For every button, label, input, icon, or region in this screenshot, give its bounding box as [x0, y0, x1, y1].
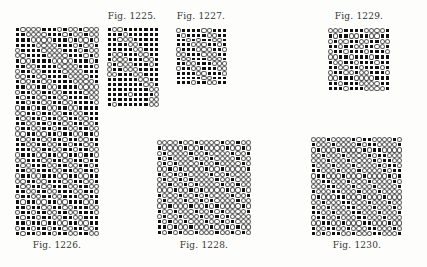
empty-circle [89, 84, 94, 89]
empty-circle [194, 166, 199, 171]
empty-circle [154, 102, 159, 107]
empty-circle [356, 200, 361, 205]
caption-1229: Fig. 1229. [335, 11, 383, 21]
filled-square [94, 199, 99, 204]
caption-1227: Fig. 1227. [177, 11, 225, 21]
caption-1230: Fig. 1230. [333, 240, 381, 250]
empty-circle [246, 230, 251, 235]
filled-square [47, 231, 52, 236]
filled-square [62, 231, 67, 236]
filled-square [94, 179, 99, 184]
empty-circle [83, 84, 88, 89]
filled-square [377, 231, 382, 236]
filled-square [83, 231, 88, 236]
weave-grid-1226 [15, 27, 99, 236]
empty-circle [377, 200, 382, 205]
empty-circle [214, 187, 219, 192]
filled-square [385, 33, 390, 38]
empty-circle [68, 231, 73, 236]
empty-circle [94, 84, 99, 89]
filled-square [167, 230, 172, 235]
empty-circle [207, 52, 212, 57]
empty-circle [246, 224, 251, 229]
empty-circle [377, 173, 382, 178]
filled-square [241, 230, 246, 235]
empty-circle [214, 145, 219, 150]
filled-square [201, 80, 206, 85]
weave-grid-1228 [157, 140, 251, 235]
empty-circle [356, 231, 361, 236]
empty-circle [397, 220, 402, 225]
filled-square [222, 80, 227, 85]
empty-circle [397, 194, 402, 199]
empty-circle [397, 200, 402, 205]
empty-circle [62, 64, 67, 69]
empty-circle [372, 173, 377, 178]
empty-circle [167, 145, 172, 150]
filled-square [385, 86, 390, 91]
filled-square [194, 230, 199, 235]
filled-square [94, 58, 99, 63]
empty-circle [62, 58, 67, 63]
empty-circle [362, 231, 367, 236]
caption-1228: Fig. 1228. [180, 240, 228, 250]
empty-circle [356, 226, 361, 231]
filled-square [397, 231, 402, 236]
empty-circle [68, 64, 73, 69]
empty-circle [374, 86, 379, 91]
caption-1226: Fig. 1226. [33, 240, 81, 250]
caption-1225: Fig. 1225. [108, 11, 156, 21]
empty-circle [89, 231, 94, 236]
weave-grid-1227 [176, 28, 227, 85]
weave-grid-1229 [328, 28, 390, 91]
filled-square [143, 102, 148, 107]
empty-circle [94, 231, 99, 236]
empty-circle [207, 80, 212, 85]
filled-square [94, 226, 99, 231]
filled-square [246, 166, 251, 171]
weave-grid-1225 [107, 27, 159, 107]
weave-grid-1230 [311, 137, 402, 236]
filled-square [397, 173, 402, 178]
empty-circle [397, 147, 402, 152]
empty-circle [372, 194, 377, 199]
filled-square [374, 39, 379, 44]
empty-circle [235, 166, 240, 171]
filled-square [214, 230, 219, 235]
empty-circle [188, 166, 193, 171]
empty-circle [41, 37, 46, 42]
